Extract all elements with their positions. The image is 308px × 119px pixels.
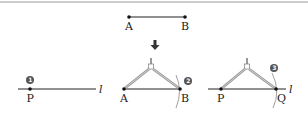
arc [176,75,180,108]
svg-text:3: 3 [272,64,276,71]
label-q: Q [277,92,286,105]
down-arrow-icon [151,40,160,50]
segment-ab: A B [124,15,189,33]
step-badge-2: 2 [184,77,192,85]
step-2: 2 A B [119,58,192,108]
step-1: 1 P l [18,76,103,105]
step-badge-1: 1 [26,76,34,84]
construction-diagram: A B 1 P l 2 [0,0,308,119]
svg-text:2: 2 [186,77,190,84]
label-line-l: l [99,83,103,96]
label-a: A [124,20,134,33]
label-b: B [181,20,189,33]
compass-icon [222,58,276,89]
step-badge-3: 3 [270,64,278,72]
step-3: 3 P Q l [208,58,293,108]
label-line-l2: l [289,83,293,96]
svg-text:1: 1 [28,76,32,83]
compass-icon [125,58,180,89]
label-p2: P [217,92,225,105]
label-p: P [27,92,35,105]
label-a2: A [119,92,129,105]
label-b2: B [181,92,189,105]
